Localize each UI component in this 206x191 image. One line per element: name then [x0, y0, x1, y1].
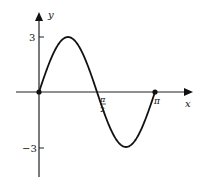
x-tick-label-pi-half-num: π: [99, 95, 106, 104]
sine-chart: y x 3 −3 π 2 π: [0, 0, 206, 191]
y-tick-label-neg3: −3: [22, 143, 37, 154]
y-tick-label-3: 3: [29, 32, 35, 43]
y-axis-arrow-icon: [35, 12, 43, 21]
x-tick-label-pi-half-den: 2: [100, 105, 105, 114]
x-axis-label: x: [185, 98, 191, 109]
x-tick-label-pi: π: [153, 96, 161, 106]
y-axis-label: y: [47, 9, 54, 20]
origin-point: [36, 89, 41, 94]
x-axis-arrow-icon: [184, 88, 193, 96]
pi-point: [152, 89, 157, 94]
